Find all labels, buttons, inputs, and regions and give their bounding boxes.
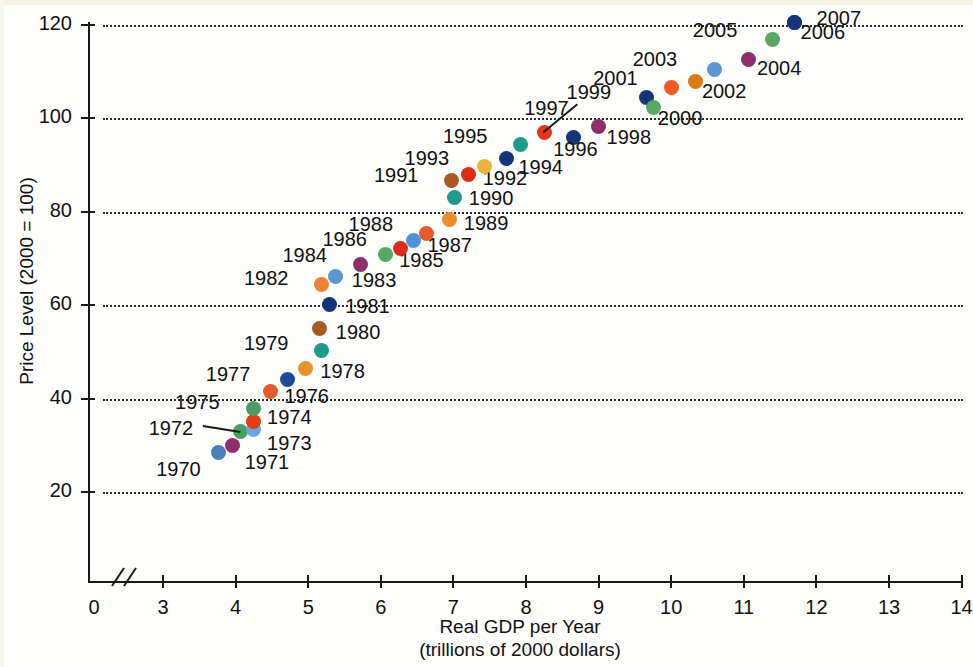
y-axis-line xyxy=(88,22,90,583)
data-point-label-1981: 1981 xyxy=(345,295,390,318)
data-point-1982[interactable] xyxy=(314,277,329,292)
data-point-2007[interactable] xyxy=(787,15,802,30)
data-point-1971[interactable] xyxy=(225,438,240,453)
x-tick-label: 3 xyxy=(143,596,183,619)
y-tick-label: 120 xyxy=(14,12,72,35)
data-point-1975[interactable] xyxy=(246,401,261,416)
data-point-label-1987: 1987 xyxy=(427,234,472,257)
data-point-label-1982: 1982 xyxy=(244,267,289,290)
gridline xyxy=(103,492,963,494)
y-tick-label: 20 xyxy=(14,479,72,502)
y-tick xyxy=(81,211,95,213)
x-axis-break-icon xyxy=(108,566,148,588)
x-tick-label: 14 xyxy=(942,596,973,619)
price-level-gdp-scatter-chart: 20406080100120 034567891011121314 197019… xyxy=(0,0,973,667)
x-tick-label: 12 xyxy=(796,596,836,619)
y-tick xyxy=(81,117,95,119)
y-tick xyxy=(81,491,95,493)
gridline xyxy=(103,305,963,307)
data-point-1984[interactable] xyxy=(353,257,368,272)
data-point-label-2000: 2000 xyxy=(658,107,703,130)
data-point-label-1976: 1976 xyxy=(284,385,329,408)
data-point-1992[interactable] xyxy=(461,167,476,182)
y-tick xyxy=(81,24,95,26)
data-point-1994[interactable] xyxy=(499,151,514,166)
data-point-1995[interactable] xyxy=(513,137,528,152)
gridline xyxy=(103,212,963,214)
x-tick-label: 4 xyxy=(216,596,256,619)
data-point-label-1980: 1980 xyxy=(336,321,381,344)
data-point-label-2004: 2004 xyxy=(757,57,802,80)
data-point-1979[interactable] xyxy=(314,343,329,358)
x-tick xyxy=(961,575,963,588)
data-point-1970[interactable] xyxy=(211,445,226,460)
data-point-label-2005: 2005 xyxy=(693,19,738,42)
x-tick-label: 11 xyxy=(724,596,764,619)
data-point-1985[interactable] xyxy=(378,247,393,262)
data-point-1990[interactable] xyxy=(447,190,462,205)
x-tick xyxy=(235,575,237,588)
x-tick xyxy=(307,575,309,588)
data-point-label-1972: 1972 xyxy=(149,417,194,440)
y-axis-title: Price Level (2000 = 100) xyxy=(16,121,38,441)
x-tick xyxy=(670,575,672,588)
data-point-label-1979: 1979 xyxy=(244,332,289,355)
x-axis-title-sub: (trillions of 2000 dollars) xyxy=(330,638,710,661)
plot-area: 20406080100120 034567891011121314 197019… xyxy=(0,0,973,667)
y-tick xyxy=(81,304,95,306)
x-tick xyxy=(743,575,745,588)
gridline xyxy=(103,399,963,401)
data-point-label-1975: 1975 xyxy=(175,391,220,414)
x-tick xyxy=(598,575,600,588)
data-point-label-1978: 1978 xyxy=(320,360,365,383)
x-tick xyxy=(380,575,382,588)
x-tick xyxy=(452,575,454,588)
data-point-label-1984: 1984 xyxy=(282,244,327,267)
data-point-label-1983: 1983 xyxy=(352,269,397,292)
x-axis-title-main: Real GDP per Year xyxy=(439,616,600,637)
data-point-1981[interactable] xyxy=(322,297,337,312)
data-point-label-1996: 1996 xyxy=(553,138,598,161)
x-tick-label: 0 xyxy=(74,596,114,619)
data-point-2004[interactable] xyxy=(741,52,756,67)
data-point-2003[interactable] xyxy=(707,62,722,77)
data-point-label-1974: 1974 xyxy=(267,406,312,429)
data-point-1978[interactable] xyxy=(298,361,313,376)
data-point-label-2007: 2007 xyxy=(817,7,862,30)
x-tick xyxy=(815,575,817,588)
data-point-label-1998: 1998 xyxy=(607,126,652,149)
data-point-1980[interactable] xyxy=(312,321,327,336)
x-tick xyxy=(525,575,527,588)
data-point-2005[interactable] xyxy=(765,32,780,47)
data-point-label-1973: 1973 xyxy=(267,432,312,455)
data-point-label-1988: 1988 xyxy=(349,213,394,236)
data-point-1998[interactable] xyxy=(591,119,606,134)
data-point-label-1995: 1995 xyxy=(443,125,488,148)
data-point-label-2001: 2001 xyxy=(593,67,638,90)
data-point-label-1977: 1977 xyxy=(206,363,251,386)
data-point-label-1970: 1970 xyxy=(156,458,201,481)
data-point-1991[interactable] xyxy=(444,173,459,188)
x-tick xyxy=(162,575,164,588)
x-tick-label: 5 xyxy=(288,596,328,619)
data-point-label-2002: 2002 xyxy=(702,80,747,103)
data-point-1976[interactable] xyxy=(263,384,278,399)
data-point-2001[interactable] xyxy=(664,80,679,95)
data-point-label-1990: 1990 xyxy=(469,187,514,210)
data-point-label-1993: 1993 xyxy=(405,147,450,170)
data-point-label-2003: 2003 xyxy=(633,48,678,71)
x-tick-label: 13 xyxy=(869,596,909,619)
y-tick xyxy=(81,398,95,400)
data-point-label-1989: 1989 xyxy=(464,212,509,235)
data-point-1983[interactable] xyxy=(328,269,343,284)
x-axis-title: Real GDP per Year (trillions of 2000 dol… xyxy=(330,615,710,661)
data-point-1989[interactable] xyxy=(442,212,457,227)
x-tick xyxy=(888,575,890,588)
